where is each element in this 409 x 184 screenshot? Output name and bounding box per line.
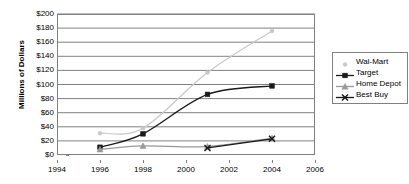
marker-dot — [98, 131, 102, 135]
chart-legend: Wal-MartTargetHome DepotBest Buy — [332, 52, 408, 104]
y-axis-tick-label: $140 — [16, 52, 54, 60]
series-line — [100, 31, 272, 134]
x-axis-tick-label: 1994 — [37, 165, 77, 174]
marker-square — [270, 84, 275, 89]
y-axis-tick-label: $120 — [16, 66, 54, 74]
x-axis-tick-label: 2006 — [295, 165, 335, 174]
marker-square — [141, 132, 146, 137]
series-line — [100, 138, 272, 149]
marker-dot — [270, 29, 274, 33]
y-axis-tick-label: $180 — [16, 24, 54, 32]
x-axis-tick-mark — [315, 160, 316, 163]
x-axis-tick-label: 2004 — [252, 165, 292, 174]
y-axis-tick-label: $160 — [16, 38, 54, 46]
legend-marker-triangle-icon — [335, 78, 355, 89]
line-chart: Millions of Dollars $0$20$40$60$80$100$1… — [0, 0, 409, 184]
legend-item[interactable]: Wal-Mart — [335, 56, 405, 67]
marker-dot — [206, 71, 210, 75]
y-axis-tick-label: $60 — [16, 109, 54, 117]
marker-dot — [141, 126, 145, 130]
x-axis-tick-labels: 1994199619982000200220042006 — [57, 160, 315, 174]
legend-item-label: Best Buy — [355, 89, 388, 100]
x-axis-tick-mark — [186, 160, 187, 163]
x-axis-tick-label: 2002 — [209, 165, 249, 174]
y-axis-tick-label: $0 — [16, 151, 54, 159]
series-line — [100, 86, 272, 147]
y-axis-tick-label: $20 — [16, 137, 54, 145]
y-axis-tick-label: $40 — [16, 123, 54, 131]
legend-item-label: Wal-Mart — [355, 56, 388, 67]
legend-marker-square-icon — [335, 67, 355, 78]
x-axis-tick-mark — [57, 160, 58, 163]
y-axis-tick-label: $100 — [16, 81, 54, 89]
x-axis-tick-label: 2000 — [166, 165, 206, 174]
y-axis-tick-mark — [66, 155, 69, 156]
plot-series-layer — [57, 14, 315, 155]
marker-square — [205, 92, 210, 97]
y-axis-tick-label: $80 — [16, 95, 54, 103]
legend-item[interactable]: Best Buy — [335, 89, 405, 100]
series-line — [208, 139, 273, 148]
plot-area-wrapper — [57, 14, 315, 155]
legend-marker-x-icon — [335, 89, 355, 100]
marker-dot — [343, 63, 347, 67]
x-axis-tick-mark — [143, 160, 144, 163]
series-wal-mart — [98, 29, 274, 135]
legend-item[interactable]: Target — [335, 67, 405, 78]
legend-item-label: Target — [355, 67, 378, 78]
legend-marker-dot-icon — [335, 56, 355, 67]
legend-item-label: Home Depot — [355, 78, 401, 89]
y-axis-tick-labels: $0$20$40$60$80$100$120$140$160$180$200 — [12, 14, 54, 155]
x-axis-tick-mark — [272, 160, 273, 163]
legend-item[interactable]: Home Depot — [335, 78, 405, 89]
series-best-buy — [205, 136, 276, 151]
series-home-depot — [97, 135, 275, 152]
x-axis-tick-label: 1996 — [80, 165, 120, 174]
x-axis-tick-mark — [100, 160, 101, 163]
y-axis-tick-label: $200 — [16, 10, 54, 18]
series-target — [98, 84, 275, 150]
x-axis-tick-label: 1998 — [123, 165, 163, 174]
x-axis-tick-mark — [229, 160, 230, 163]
